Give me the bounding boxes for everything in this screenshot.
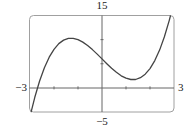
x-max-label: 3 — [178, 82, 188, 93]
x-min-label: −3 — [11, 82, 27, 93]
y-min-label: −5 — [94, 116, 110, 127]
function-graph — [0, 0, 192, 131]
y-max-label: 15 — [95, 0, 109, 11]
